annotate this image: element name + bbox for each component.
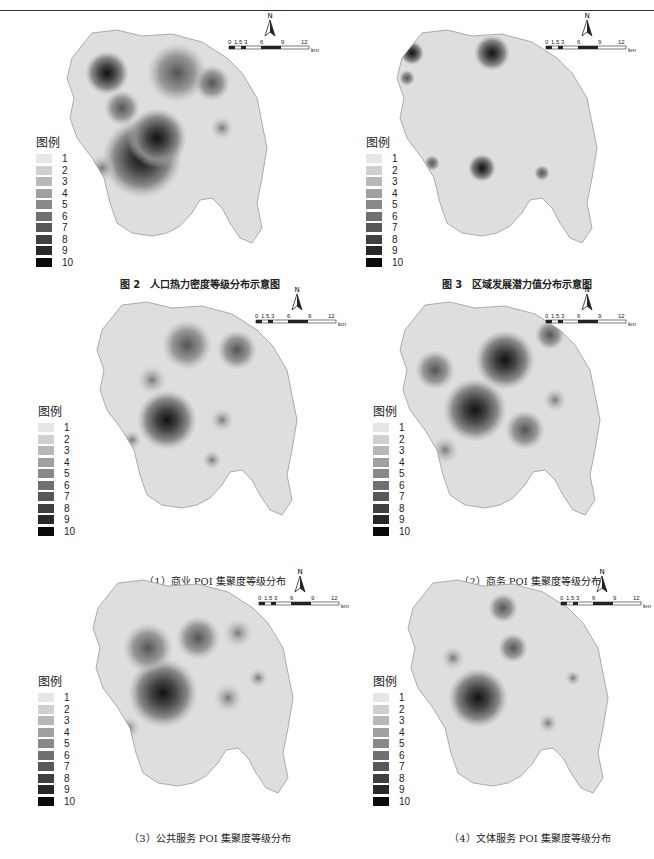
legend-label: 5 <box>392 199 398 210</box>
north-arrow-icon: N <box>597 568 607 592</box>
legend-label: 6 <box>62 211 68 222</box>
legend-item: 5 <box>373 468 410 480</box>
legend-swatch <box>38 774 54 783</box>
legend-swatch <box>38 751 54 760</box>
svg-text:0: 0 <box>255 313 259 319</box>
legend-swatch <box>36 258 52 267</box>
legend-swatch <box>373 446 389 455</box>
legend-label: 7 <box>64 761 70 772</box>
legend-item: 10 <box>366 257 403 269</box>
choropleth-map <box>62 28 277 253</box>
svg-text:12: 12 <box>331 595 338 601</box>
svg-text:0: 0 <box>560 595 564 601</box>
svg-text:0: 0 <box>545 313 549 319</box>
legend-label: 1 <box>62 153 68 164</box>
legend-label: 7 <box>399 491 405 502</box>
legend-item: 1 <box>366 153 403 165</box>
svg-text:km: km <box>311 47 319 53</box>
legend-label: 4 <box>62 188 68 199</box>
legend-swatch <box>38 705 54 714</box>
legend-item: 2 <box>36 165 73 177</box>
legend-label: 1 <box>64 422 70 433</box>
north-arrow-icon: N <box>292 286 302 310</box>
legend-swatch <box>366 166 382 175</box>
legend-item: 5 <box>38 738 75 750</box>
legend-swatch <box>38 739 54 748</box>
legend-swatch <box>366 235 382 244</box>
legend-item: 10 <box>38 526 75 538</box>
legend-swatch <box>36 223 52 232</box>
legend-swatch <box>36 166 52 175</box>
legend-swatch <box>366 154 382 163</box>
svg-text:9: 9 <box>613 595 617 601</box>
legend-item: 3 <box>38 715 75 727</box>
svg-text:3: 3 <box>561 313 565 319</box>
legend-item: 2 <box>373 434 410 446</box>
scale-bar: N 01.53 6912 km <box>250 284 350 332</box>
legend-swatch <box>38 785 54 794</box>
legend-swatch <box>38 481 54 490</box>
legend-label: 4 <box>64 727 70 738</box>
legend-item: 3 <box>38 445 75 457</box>
legend-swatch <box>373 716 389 725</box>
legend-item: 10 <box>38 796 75 808</box>
svg-text:0: 0 <box>545 39 549 45</box>
svg-text:3: 3 <box>244 39 248 45</box>
legend-item: 5 <box>36 199 73 211</box>
legend-item: 9 <box>38 514 75 526</box>
legend-item: 9 <box>366 245 403 257</box>
legend-label: 1 <box>64 692 70 703</box>
map-legend: 图例 1 2 3 4 5 6 7 8 9 10 <box>38 402 75 537</box>
legend-item: 7 <box>366 222 403 234</box>
legend-label: 8 <box>399 503 405 514</box>
legend-item: 2 <box>373 704 410 716</box>
legend-title: 图例 <box>38 672 75 689</box>
legend-label: 9 <box>399 784 405 795</box>
legend-swatch <box>36 235 52 244</box>
legend-label: 3 <box>399 715 405 726</box>
legend-label: 10 <box>399 526 410 537</box>
svg-text:6: 6 <box>577 39 581 45</box>
legend-label: 8 <box>392 234 398 245</box>
figure-caption: （3）公共服务 POI 集聚度等级分布 <box>80 830 340 845</box>
legend-label: 2 <box>64 704 70 715</box>
legend-label: 1 <box>399 422 405 433</box>
map-legend: 图例 1 2 3 4 5 6 7 8 9 10 <box>366 133 403 268</box>
svg-text:0: 0 <box>228 39 232 45</box>
legend-swatch <box>373 751 389 760</box>
legend-swatch <box>373 527 389 536</box>
legend-item: 2 <box>38 704 75 716</box>
legend-swatch <box>38 762 54 771</box>
legend-swatch <box>38 527 54 536</box>
north-arrow-icon: N <box>582 12 592 36</box>
legend-label: 10 <box>392 257 403 268</box>
legend-item: 6 <box>373 750 410 762</box>
legend-item: 6 <box>36 211 73 223</box>
legend-swatch <box>373 762 389 771</box>
legend-item: 10 <box>36 257 73 269</box>
legend-label: 3 <box>399 445 405 456</box>
legend-item: 7 <box>38 491 75 503</box>
legend-item: 4 <box>38 457 75 469</box>
legend-item: 7 <box>373 491 410 503</box>
legend-item: 8 <box>373 773 410 785</box>
legend-item: 9 <box>373 514 410 526</box>
legend-label: 4 <box>399 727 405 738</box>
svg-text:12: 12 <box>328 313 335 319</box>
legend-swatch <box>373 458 389 467</box>
legend-label: 8 <box>62 234 68 245</box>
legend-swatch <box>36 189 52 198</box>
svg-text:km: km <box>628 47 636 53</box>
legend-item: 7 <box>373 761 410 773</box>
legend-title: 图例 <box>38 402 75 419</box>
legend-swatch <box>373 785 389 794</box>
svg-text:6: 6 <box>290 595 294 601</box>
legend-title: 图例 <box>373 402 410 419</box>
choropleth-map <box>395 300 610 525</box>
legend-title: 图例 <box>36 133 73 150</box>
svg-text:1.5: 1.5 <box>264 595 273 601</box>
svg-text:km: km <box>628 321 636 327</box>
legend-item: 2 <box>38 434 75 446</box>
legend-item: 6 <box>38 750 75 762</box>
legend-swatch <box>366 212 382 221</box>
